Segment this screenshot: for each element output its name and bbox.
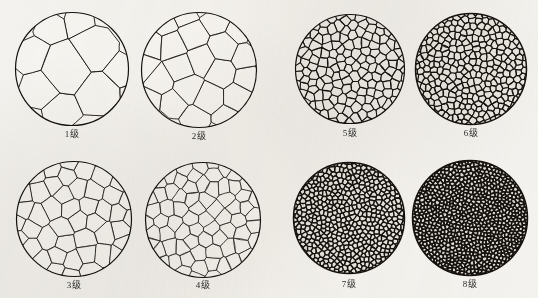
grain-cell	[295, 255, 302, 263]
grain-cell	[509, 159, 516, 169]
grain-cell	[141, 235, 144, 247]
grain-cell	[411, 94, 418, 104]
grain-cell	[429, 240, 433, 244]
grain-cell	[408, 185, 415, 194]
grain-cell	[305, 226, 310, 232]
grain-cell	[387, 273, 396, 278]
grain-cell	[133, 238, 136, 253]
grain-cell	[392, 267, 400, 276]
grain-cell	[397, 264, 408, 274]
grain-cell	[495, 176, 500, 180]
grain-cell	[475, 156, 480, 164]
grain-cell	[291, 92, 293, 104]
grain-cells	[13, 8, 133, 130]
grain-cell	[436, 9, 450, 14]
grain-cell	[411, 265, 420, 272]
grain-cell	[490, 193, 495, 197]
grain-cells	[137, 8, 261, 132]
grain-cell	[425, 158, 429, 165]
grain-cell	[523, 178, 531, 185]
grain-cell	[141, 244, 144, 261]
grain-cell	[289, 257, 296, 267]
grain-cell	[289, 244, 295, 252]
grain-cell	[472, 34, 478, 41]
grain-cell	[510, 227, 514, 231]
panel-caption-grade-2: 2级	[159, 131, 239, 142]
grain-cell	[465, 183, 470, 187]
grain-cell	[371, 158, 380, 164]
grain-cell	[504, 237, 508, 241]
grain-cell	[497, 156, 502, 161]
grain-cell	[496, 38, 504, 45]
grain-cell	[411, 104, 420, 111]
grain-cell	[289, 198, 290, 205]
panel-caption-grade-4: 4级	[163, 280, 243, 291]
grain-cell	[408, 244, 414, 252]
grain-cell	[507, 204, 511, 209]
grain-cell	[423, 163, 431, 171]
grain-cell	[518, 165, 531, 173]
grain-cell	[379, 118, 390, 128]
grain-cell	[125, 246, 136, 264]
grain-cell	[526, 258, 532, 265]
grain-cell	[408, 84, 409, 96]
grain-cell	[305, 190, 311, 196]
grain-cell	[146, 263, 161, 281]
grain-cell	[319, 10, 328, 14]
grain-cell	[504, 9, 513, 21]
grain-cell	[353, 10, 362, 11]
grain-cell	[394, 256, 405, 264]
grain-cell	[524, 253, 531, 258]
grain-cell	[467, 11, 475, 18]
grain-cell	[515, 271, 523, 280]
grain-cell	[397, 175, 406, 183]
grain-cell	[408, 164, 416, 173]
grain-cell	[512, 273, 517, 280]
grain-cell	[305, 264, 315, 273]
grain-cell	[480, 226, 484, 231]
panel-caption-grade-1: 1级	[32, 129, 112, 140]
grain-cell	[352, 168, 357, 174]
grain-cell	[308, 213, 313, 218]
grain-structure-disc	[12, 157, 136, 281]
grain-cell	[475, 243, 480, 246]
grain-cell	[498, 234, 502, 238]
grain-cell	[525, 262, 532, 271]
grain-cell	[345, 206, 350, 211]
grain-cell	[404, 89, 409, 99]
grain-cell	[310, 158, 316, 167]
grain-cell	[518, 211, 522, 215]
grain-cell	[291, 31, 300, 42]
grain-cell	[417, 272, 427, 280]
grain-cell	[530, 229, 532, 239]
grain-cell	[421, 12, 435, 22]
grain-cell	[455, 236, 459, 240]
grain-cell	[420, 114, 431, 127]
grain-cell	[440, 156, 447, 158]
panel-caption-grade-5: 5级	[310, 128, 390, 139]
grain-cell	[400, 177, 406, 186]
grain-cell	[517, 16, 529, 24]
grain-size-chart-sheet: 1级2级3级4级5级6级7级8级	[0, 0, 538, 298]
grain-panel-grade-1	[11, 8, 133, 130]
grain-cell	[504, 226, 508, 231]
grain-cell	[381, 158, 389, 163]
grain-structure-disc	[137, 8, 261, 132]
grain-cell	[295, 20, 308, 31]
grain-cell	[289, 175, 291, 187]
grain-cell	[289, 167, 300, 175]
grain-cell	[310, 158, 314, 165]
grain-cell	[415, 258, 424, 265]
grain-cell	[426, 156, 435, 159]
grain-cell	[470, 247, 474, 252]
grain-cell	[416, 111, 428, 124]
grain-cell	[296, 112, 311, 125]
grain-cell	[499, 182, 505, 187]
grain-cell	[384, 252, 388, 257]
grain-cell	[512, 122, 522, 129]
grain-cell	[242, 267, 254, 282]
grain-cell	[471, 269, 475, 273]
grain-cell	[413, 169, 422, 175]
grain-cell	[408, 174, 410, 185]
grain-cell	[529, 97, 531, 106]
